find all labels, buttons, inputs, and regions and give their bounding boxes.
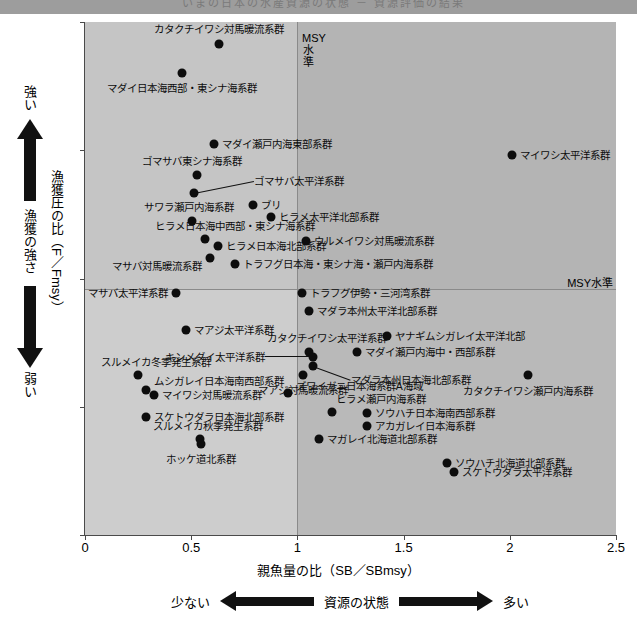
data-point-label: マダイ瀬戸内海中・西部系群 xyxy=(365,346,495,357)
data-point[interactable] xyxy=(196,439,205,448)
data-point-label: マアジ太平洋系群 xyxy=(194,324,274,335)
data-point-label: ヒラメ日本海中西部・東シナ海系群 xyxy=(155,220,315,231)
data-point-label: ソウハチ日本海南西部系群 xyxy=(375,408,495,419)
fishing-strength-high-label: 強い xyxy=(21,85,40,111)
fishing-strength-low-label: 弱い xyxy=(21,372,40,398)
stock-state-low-label: 少ない xyxy=(171,592,210,611)
data-point-label: マダイ瀬戸内海東部系群 xyxy=(222,138,332,149)
data-point-label: スルメイカ冬季発生系群 xyxy=(101,356,211,367)
data-point-label: ウルメイワシ対馬暖流系群 xyxy=(314,236,434,247)
data-point[interactable] xyxy=(141,413,150,422)
data-point[interactable] xyxy=(363,421,372,430)
x-tick-label: 0.5 xyxy=(182,540,200,555)
data-point[interactable] xyxy=(230,260,239,269)
data-point[interactable] xyxy=(177,69,186,78)
arrow-down-icon xyxy=(17,348,43,368)
data-point-label: ヤナギムシガレイ太平洋北部 xyxy=(395,331,525,342)
data-point-label: マイワシ太平洋系群 xyxy=(520,150,610,161)
data-point-label: マダイ日本海西部・東シナ海系群 xyxy=(107,83,257,94)
data-point[interactable] xyxy=(134,370,143,379)
window-title-text: いまの日本の水産資源の状態 － 資源評価の結果 xyxy=(182,0,465,10)
msy-horizontal-label: MSY水準 xyxy=(567,274,613,290)
data-point-label: マガレイ北海道北部系群 xyxy=(327,433,437,444)
x-tick-label: 2.5 xyxy=(607,540,625,555)
data-point[interactable] xyxy=(181,325,190,334)
data-point[interactable] xyxy=(214,39,223,48)
x-axis-label-text: 親魚量の比（SB／SBmsy） xyxy=(257,563,420,578)
data-point-label: ゴマサバ太平洋系群 xyxy=(254,175,344,186)
y-tick-mark xyxy=(80,407,85,408)
y-tick-mark xyxy=(80,279,85,280)
data-point[interactable] xyxy=(283,388,292,397)
y-axis-label: 漁獲圧の比（F／Fmsy） xyxy=(46,170,66,314)
arrow-right-icon xyxy=(399,591,493,611)
data-point[interactable] xyxy=(206,253,215,262)
data-point[interactable] xyxy=(352,347,361,356)
data-point-label: トラフグ日本海・東シナ海・瀬戸内海系群 xyxy=(243,259,433,270)
arrow-left-icon xyxy=(220,591,314,611)
data-point[interactable] xyxy=(201,234,210,243)
data-point[interactable] xyxy=(150,391,159,400)
data-point-label: ホッケ道北系群 xyxy=(166,453,236,464)
data-point[interactable] xyxy=(309,352,318,361)
data-point-label: ヒラメ瀬戸内海系群 xyxy=(336,393,426,404)
data-point[interactable] xyxy=(297,288,306,297)
data-point[interactable] xyxy=(523,370,532,379)
fishing-strength-annotation: 強い 漁獲の強さ 弱い xyxy=(10,85,50,402)
data-point[interactable] xyxy=(192,170,201,179)
data-point-label: トラフグ伊勢・三河湾系群 xyxy=(310,287,430,298)
x-axis-label: 親魚量の比（SB／SBmsy） xyxy=(0,560,637,579)
data-point-label: カタクチイワシ太平洋系群 xyxy=(267,332,387,343)
fishing-strength-title: 漁獲の強さ xyxy=(21,209,40,274)
scatter-plot-area: MSY水準 MSY水準 カタクチイワシ対馬暖流系群マダイ日本海西部・東シナ海系群… xyxy=(84,22,616,536)
data-point-label: マイワシ対馬暖流系群 xyxy=(162,390,262,401)
stock-state-annotation: 少ない 資源の状態 多い xyxy=(84,588,615,614)
label-leader-line xyxy=(265,356,313,357)
data-point-label: マダラ本州太平洋北部系群 xyxy=(317,305,437,316)
data-point-label: スケトウダラ太平洋系群 xyxy=(462,467,572,478)
stock-state-title: 資源の状態 xyxy=(324,592,389,611)
stock-state-high-label: 多い xyxy=(503,592,529,611)
data-point-label: マサバ太平洋系群 xyxy=(88,287,168,298)
data-point-label: ヒラメ日本海北部系群 xyxy=(226,241,326,252)
arrow-up-icon xyxy=(17,119,43,139)
data-point-label: ゴマサバ東シナ海系群 xyxy=(142,155,242,166)
x-tick-label: 1.5 xyxy=(395,540,413,555)
data-point[interactable] xyxy=(382,332,391,341)
data-point[interactable] xyxy=(190,188,199,197)
data-point-label: ブリ xyxy=(261,200,281,211)
data-point-label: サワラ瀬戸内海系群 xyxy=(144,201,234,212)
y-tick-mark xyxy=(80,150,85,151)
data-point-label: スルメイカ秋季発生系群 xyxy=(153,420,263,431)
data-point[interactable] xyxy=(314,434,323,443)
data-point[interactable] xyxy=(172,288,181,297)
data-point[interactable] xyxy=(301,237,310,246)
data-point[interactable] xyxy=(213,242,222,251)
data-point[interactable] xyxy=(309,361,318,370)
data-point[interactable] xyxy=(305,306,314,315)
data-point-label: マサバ対馬暖流系群 xyxy=(112,260,202,271)
msy-vertical-label: MSY水準 xyxy=(302,32,315,68)
data-point[interactable] xyxy=(449,468,458,477)
x-tick-label: 1 xyxy=(294,540,301,555)
arrow-down-shaft xyxy=(24,286,36,348)
data-point-label: ムシガレイ日本海南西部系群 xyxy=(154,376,284,387)
data-point-label: カタクチイワシ対馬暖流系群 xyxy=(154,23,284,34)
arrow-up-shaft xyxy=(24,139,36,201)
msy-vertical-reference-line xyxy=(297,22,298,535)
data-point[interactable] xyxy=(248,201,257,210)
x-tick-label: 2 xyxy=(506,540,513,555)
data-point-label: アカガレイ日本海系群 xyxy=(375,420,475,431)
x-tick-label: 0 xyxy=(81,540,88,555)
data-point-label: ズワイガニ日本海系群A海域 xyxy=(296,380,423,391)
data-point[interactable] xyxy=(328,407,337,416)
window-title-bar: いまの日本の水産資源の状態 － 資源評価の結果 xyxy=(0,0,637,14)
data-point[interactable] xyxy=(298,370,307,379)
y-tick-mark xyxy=(80,22,85,23)
data-point-label: カタクチイワシ瀬戸内海系群 xyxy=(463,385,593,396)
data-point[interactable] xyxy=(209,139,218,148)
data-point[interactable] xyxy=(443,459,452,468)
data-point[interactable] xyxy=(507,151,516,160)
data-point[interactable] xyxy=(363,409,372,418)
